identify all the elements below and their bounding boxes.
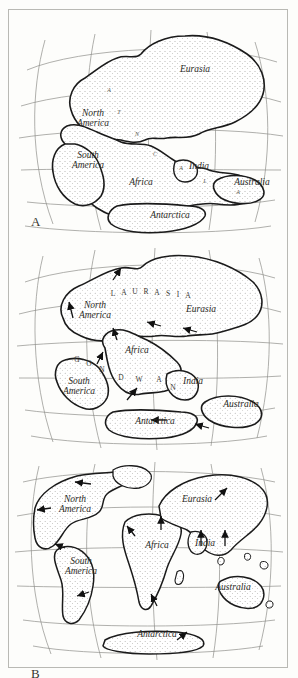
svg-text:G: G xyxy=(74,355,80,364)
svg-text:America: America xyxy=(78,310,111,320)
svg-text:L: L xyxy=(202,178,207,184)
label-africa: Africa xyxy=(124,345,149,355)
panel-a: North America South America Eurasia Afri… xyxy=(9,10,289,242)
panel-c: North America South America Eurasia Afri… xyxy=(9,460,289,667)
label-antarctica: Antarctica xyxy=(149,210,190,220)
panel-c-map: North America South America Eurasia Afri… xyxy=(9,460,289,667)
label-india: India xyxy=(188,161,209,171)
svg-text:America: America xyxy=(71,160,104,170)
panel-a-map: North America South America Eurasia Afri… xyxy=(9,10,289,242)
svg-text:N: N xyxy=(99,365,105,374)
svg-text:A: A xyxy=(156,375,162,384)
label-antarctica: Antarctica xyxy=(134,416,175,426)
panel-b-map: North America South America Eurasia Afri… xyxy=(9,242,289,460)
svg-text:A: A xyxy=(154,288,160,297)
svg-text:U: U xyxy=(132,287,138,296)
svg-text:America: America xyxy=(76,118,109,128)
label-australia: Australia xyxy=(233,177,270,187)
svg-text:N: N xyxy=(170,383,176,392)
panel-b-label: B xyxy=(31,666,40,678)
svg-text:A: A xyxy=(121,288,127,297)
svg-text:A: A xyxy=(178,165,183,171)
label-north-america: North xyxy=(81,108,104,118)
svg-text:America: America xyxy=(62,386,95,396)
label-eurasia: Eurasia xyxy=(181,494,212,504)
label-north-america: North xyxy=(83,300,106,310)
svg-text:A: A xyxy=(106,87,111,93)
label-eurasia: Eurasia xyxy=(185,304,216,314)
svg-text:R: R xyxy=(143,287,148,296)
svg-text:W: W xyxy=(135,375,143,384)
label-south-america: South xyxy=(70,556,92,566)
label-eurasia: Eurasia xyxy=(179,64,210,74)
svg-text:America: America xyxy=(58,504,91,514)
label-africa: Africa xyxy=(128,177,153,187)
label-australia: Australia xyxy=(214,582,251,592)
label-south-america: South xyxy=(68,376,90,386)
svg-text:D: D xyxy=(118,373,124,382)
svg-text:L: L xyxy=(111,289,116,298)
svg-text:O: O xyxy=(86,359,92,368)
label-india: India xyxy=(182,376,203,386)
pangaea-landmass xyxy=(53,36,265,233)
label-antarctica: Antarctica xyxy=(136,629,177,639)
figure-frame: North America South America Eurasia Afri… xyxy=(8,9,288,668)
svg-text:A: A xyxy=(185,291,191,300)
label-india: India xyxy=(194,538,215,548)
label-australia: Australia xyxy=(222,399,259,409)
svg-text:S: S xyxy=(166,289,170,298)
label-north-america: North xyxy=(63,494,86,504)
svg-text:America: America xyxy=(64,566,97,576)
panel-b: North America South America Eurasia Afri… xyxy=(9,242,289,460)
label-south-america: South xyxy=(77,150,99,160)
svg-text:A: A xyxy=(235,189,240,195)
label-africa: Africa xyxy=(144,540,169,550)
panel-a-label: A xyxy=(31,214,41,230)
